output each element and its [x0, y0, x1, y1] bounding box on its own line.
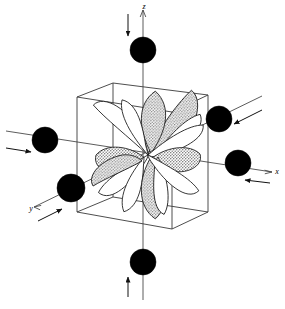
ligand-z-top: [130, 37, 156, 63]
approach-arrow-x-left: [6, 148, 31, 152]
crystal-field-figure: z x y: [0, 0, 285, 309]
cube-edge-connector-tl: [77, 83, 113, 97]
axis-label-z: z: [141, 2, 146, 11]
approach-arrow-y-back: [234, 110, 262, 124]
axis-arrowhead-x: [265, 170, 273, 174]
axis-label-y: y: [28, 204, 33, 213]
ligand-y-back: [206, 106, 232, 132]
ligand-x-left: [32, 127, 58, 153]
orbital-lobes: [90, 90, 206, 220]
cube-edge-connector-bl: [77, 197, 113, 212]
ligand-x-right: [225, 150, 251, 176]
approach-arrow-y-front: [38, 209, 62, 221]
ligand-y-front: [57, 174, 85, 202]
axis-label-x: x: [274, 167, 279, 176]
ligand-z-bottom: [130, 249, 156, 275]
approach-arrow-x-right: [245, 180, 270, 183]
figure-canvas: z x y: [0, 0, 285, 309]
cube-edge-connector-br: [172, 212, 208, 229]
